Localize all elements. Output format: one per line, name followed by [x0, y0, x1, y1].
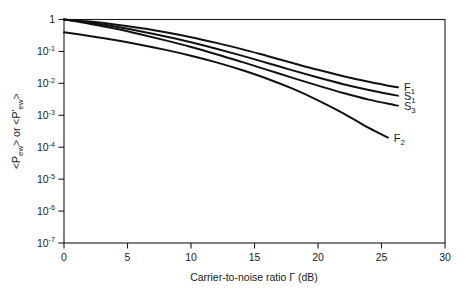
y-axis-ticks [59, 20, 65, 244]
log-line-chart: 110-110-210-310-410-510-610-7 0510152025… [0, 0, 467, 294]
curve-end-labels: F1S1S3F2 [394, 81, 416, 146]
x-tick-label-3: 15 [249, 251, 261, 263]
x-tick-label-0: 0 [61, 251, 67, 263]
y-tick-label-4: 10-4 [37, 140, 55, 153]
curve-label-F2: F2 [394, 132, 405, 147]
y-tick-label-2: 10-2 [37, 76, 55, 89]
y-axis-title: <Pew> or <P'ew> [10, 93, 25, 169]
y-axis-tick-labels: 110-110-210-310-410-510-610-7 [37, 13, 55, 249]
y-tick-label-3: 10-3 [37, 108, 55, 121]
curve-S3 [64, 20, 398, 106]
y-tick-label-1: 10-1 [37, 44, 55, 57]
x-axis-ticks [64, 243, 445, 249]
figure-root: 110-110-210-310-410-510-610-7 0510152025… [0, 0, 467, 294]
x-tick-label-2: 10 [185, 251, 197, 263]
y-axis-title-text: <Pew> or <P'ew> [10, 93, 25, 169]
y-tick-label-7: 10-7 [37, 235, 55, 248]
y-tick-label-0: 1 [49, 13, 55, 25]
x-axis-tick-labels: 051015202530 [61, 251, 451, 263]
curve-F2 [64, 32, 388, 137]
data-curves [64, 20, 398, 138]
y-tick-label-6: 10-6 [37, 203, 55, 216]
x-axis-title: Carrier-to-noise ratio Γ (dB) [190, 271, 318, 283]
x-tick-label-5: 25 [376, 251, 388, 263]
x-tick-label-6: 30 [439, 251, 451, 263]
y-tick-label-5: 10-5 [37, 172, 55, 185]
x-tick-label-4: 20 [312, 251, 324, 263]
x-tick-label-1: 5 [125, 251, 131, 263]
